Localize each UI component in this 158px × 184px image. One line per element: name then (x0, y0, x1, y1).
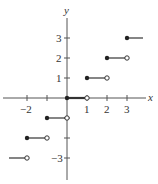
x-tick-label: 1 (84, 103, 90, 115)
chart-canvas: y x −2 1 2 3 3 2 1 −3 (0, 0, 158, 184)
y-tick-label: 2 (56, 52, 62, 64)
closed-endpoints (25, 36, 129, 140)
step-function-graph: y x −2 1 2 3 3 2 1 −3 (0, 0, 158, 184)
y-tick-label: −3 (51, 152, 63, 164)
x-axis-label: x (147, 91, 153, 103)
y-tick-label: 1 (56, 72, 62, 84)
x-tick-label: 3 (124, 103, 130, 115)
open-endpoints (25, 56, 129, 160)
y-tick-label: 3 (56, 32, 62, 44)
y-axis-label: y (63, 4, 69, 16)
x-tick-label: −2 (20, 103, 32, 115)
x-tick-label: 2 (104, 103, 110, 115)
